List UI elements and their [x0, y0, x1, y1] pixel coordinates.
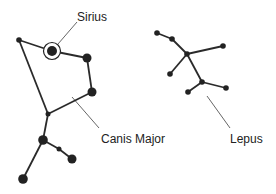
star-lep6	[199, 79, 205, 85]
star-cma4	[88, 88, 97, 97]
star-sirius	[47, 46, 57, 56]
star-lep2	[169, 36, 175, 42]
leader-lines	[58, 22, 230, 128]
constellation-edge	[170, 54, 187, 74]
lepus-leader	[207, 96, 230, 128]
star-lep8	[223, 85, 229, 91]
stars	[16, 30, 229, 184]
star-cma3	[83, 54, 92, 63]
star-cma8	[68, 155, 77, 164]
label-canis-major: Canis Major	[101, 132, 165, 146]
star-cma1	[16, 37, 22, 43]
label-sirius: Sirius	[77, 10, 107, 24]
constellation-diagram	[0, 0, 276, 194]
constellation-edge	[48, 92, 92, 114]
star-cma9	[18, 174, 28, 184]
star-lep4	[220, 43, 226, 49]
star-lep7	[185, 89, 191, 95]
star-lep5	[167, 71, 173, 77]
label-lepus: Lepus	[230, 132, 263, 146]
constellation-edge	[187, 46, 223, 54]
star-lep3	[184, 51, 190, 57]
star-cma5	[46, 112, 51, 117]
canis-major-leader	[72, 97, 99, 128]
constellation-edge	[87, 58, 92, 92]
sirius-leader	[58, 22, 77, 44]
constellation-edge	[172, 39, 187, 54]
star-lep1	[154, 30, 160, 36]
constellation-edge	[202, 82, 226, 88]
constellation-edge	[23, 140, 43, 179]
constellation-edge	[187, 54, 202, 82]
star-cma6	[38, 135, 48, 145]
star-cma7	[57, 147, 62, 152]
